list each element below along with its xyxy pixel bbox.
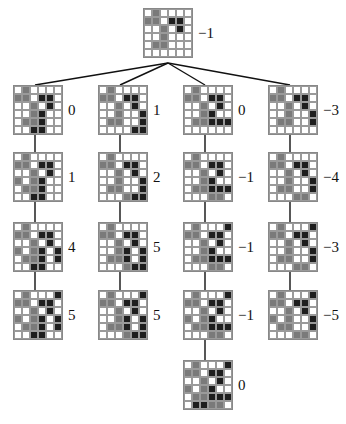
- black-stone-cell: [309, 110, 317, 118]
- node-value-label: −1: [238, 240, 254, 255]
- empty-cell: [54, 331, 62, 339]
- gray-stone-cell: [200, 377, 208, 385]
- gray-stone-cell: [107, 86, 115, 94]
- empty-cell: [208, 102, 216, 110]
- black-stone-cell: [38, 177, 46, 185]
- black-stone-cell: [54, 323, 62, 331]
- black-stone-cell: [224, 255, 232, 263]
- gray-stone-cell: [285, 102, 293, 110]
- black-stone-cell: [38, 185, 46, 193]
- empty-cell: [301, 177, 309, 185]
- empty-cell: [115, 299, 123, 307]
- empty-cell: [144, 9, 152, 17]
- gray-stone-cell: [192, 231, 200, 239]
- node-value-label: 0: [238, 103, 246, 118]
- empty-cell: [99, 247, 107, 255]
- empty-cell: [293, 323, 301, 331]
- gray-stone-cell: [277, 323, 285, 331]
- gray-stone-cell: [208, 401, 216, 409]
- empty-cell: [200, 263, 208, 271]
- empty-cell: [269, 193, 277, 201]
- empty-cell: [38, 223, 46, 231]
- empty-cell: [309, 126, 317, 134]
- black-stone-cell: [216, 102, 224, 110]
- empty-cell: [99, 323, 107, 331]
- empty-cell: [54, 239, 62, 247]
- empty-cell: [30, 94, 38, 102]
- empty-cell: [54, 110, 62, 118]
- empty-cell: [192, 307, 200, 315]
- empty-cell: [139, 153, 147, 161]
- empty-cell: [224, 307, 232, 315]
- empty-cell: [46, 177, 54, 185]
- empty-cell: [200, 299, 208, 307]
- empty-cell: [216, 153, 224, 161]
- empty-cell: [277, 307, 285, 315]
- black-stone-cell: [216, 377, 224, 385]
- empty-cell: [208, 307, 216, 315]
- black-stone-cell: [301, 307, 309, 315]
- empty-cell: [285, 193, 293, 201]
- empty-cell: [54, 153, 62, 161]
- gray-stone-cell: [152, 41, 160, 49]
- empty-cell: [107, 247, 115, 255]
- gray-stone-cell: [285, 169, 293, 177]
- empty-cell: [14, 255, 22, 263]
- empty-cell: [184, 247, 192, 255]
- empty-cell: [309, 193, 317, 201]
- black-stone-cell: [38, 255, 46, 263]
- empty-cell: [208, 377, 216, 385]
- empty-cell: [192, 102, 200, 110]
- black-stone-cell: [208, 323, 216, 331]
- empty-cell: [184, 263, 192, 271]
- gray-stone-cell: [30, 255, 38, 263]
- gray-stone-cell: [277, 291, 285, 299]
- empty-cell: [208, 126, 216, 134]
- empty-cell: [46, 118, 54, 126]
- empty-cell: [99, 153, 107, 161]
- child-board: [13, 290, 63, 340]
- empty-cell: [285, 126, 293, 134]
- gray-stone-cell: [30, 323, 38, 331]
- empty-cell: [54, 223, 62, 231]
- gray-stone-cell: [107, 161, 115, 169]
- empty-cell: [184, 169, 192, 177]
- gray-stone-cell: [30, 239, 38, 247]
- empty-cell: [38, 291, 46, 299]
- empty-cell: [99, 307, 107, 315]
- black-stone-cell: [309, 255, 317, 263]
- gray-stone-cell: [30, 315, 38, 323]
- black-stone-cell: [131, 193, 139, 201]
- gray-stone-cell: [115, 102, 123, 110]
- empty-cell: [293, 177, 301, 185]
- empty-cell: [30, 231, 38, 239]
- empty-cell: [277, 177, 285, 185]
- black-stone-cell: [123, 315, 131, 323]
- empty-cell: [144, 41, 152, 49]
- empty-cell: [30, 161, 38, 169]
- empty-cell: [123, 291, 131, 299]
- empty-cell: [293, 185, 301, 193]
- black-stone-cell: [131, 231, 139, 239]
- empty-cell: [99, 185, 107, 193]
- empty-cell: [123, 102, 131, 110]
- empty-cell: [107, 331, 115, 339]
- empty-cell: [309, 94, 317, 102]
- empty-cell: [38, 307, 46, 315]
- empty-cell: [115, 193, 123, 201]
- empty-cell: [216, 110, 224, 118]
- empty-cell: [22, 315, 30, 323]
- empty-cell: [184, 126, 192, 134]
- empty-cell: [301, 323, 309, 331]
- empty-cell: [14, 126, 22, 134]
- black-stone-cell: [293, 231, 301, 239]
- child-board: [183, 85, 233, 135]
- black-stone-cell: [46, 239, 54, 247]
- gray-stone-cell: [22, 323, 30, 331]
- empty-cell: [14, 307, 22, 315]
- black-stone-cell: [131, 161, 139, 169]
- black-stone-cell: [176, 25, 184, 33]
- empty-cell: [30, 291, 38, 299]
- node-value-label: −4: [323, 170, 339, 185]
- gray-stone-cell: [184, 315, 192, 323]
